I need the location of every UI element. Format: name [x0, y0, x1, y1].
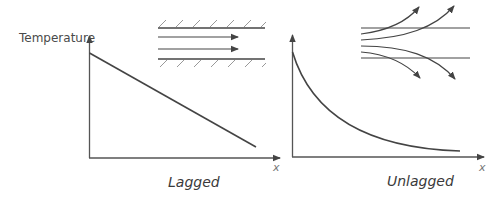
- unlagged-temperature-curve: [293, 52, 461, 151]
- unlagged-panel: [292, 6, 484, 157]
- heat-loss-arrow-2: [361, 6, 454, 40]
- lagged-panel: [89, 20, 280, 158]
- unlagged-pipe-inset: [361, 6, 470, 79]
- y-axis-label: Temperature: [19, 31, 95, 45]
- lagged-caption: Lagged: [168, 174, 220, 190]
- lagged-x-axis-label: x: [273, 161, 280, 174]
- unlagged-caption: Unlagged: [387, 173, 454, 189]
- unlagged-x-axis-label: x: [479, 161, 486, 174]
- heat-loss-arrow-4: [361, 52, 420, 78]
- heat-loss-arrow-3: [361, 46, 455, 79]
- heat-loss-arrow-1: [361, 7, 419, 34]
- insulation-hatching-bottom: [160, 60, 266, 67]
- lagged-temperature-line: [90, 53, 257, 147]
- lagged-pipe-inset: [158, 20, 266, 67]
- insulation-hatching-top: [159, 20, 266, 27]
